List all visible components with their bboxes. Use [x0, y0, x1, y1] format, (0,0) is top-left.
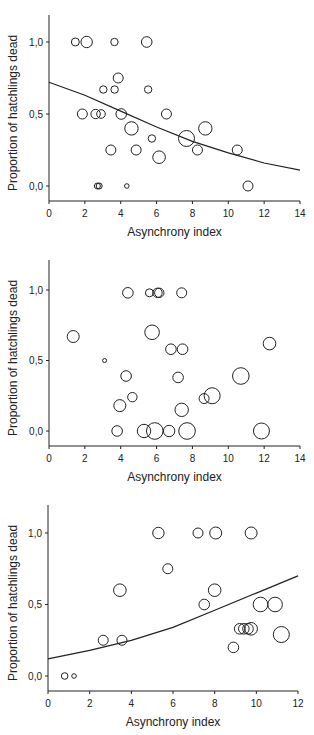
chart-panel-3: 0246810120,00,51,0Asynchrony indexPropor… — [0, 490, 314, 735]
data-point — [144, 86, 151, 93]
y-tick-label: 0,0 — [29, 181, 43, 192]
x-tick-label: 0 — [46, 453, 52, 464]
data-point — [106, 145, 116, 155]
data-point — [163, 425, 174, 436]
x-tick-label: 10 — [223, 208, 235, 219]
data-point — [67, 331, 79, 343]
data-point — [145, 289, 153, 297]
data-point — [253, 423, 269, 439]
data-point — [128, 392, 137, 401]
x-tick-label: 8 — [212, 698, 218, 709]
data-point — [141, 37, 152, 48]
data-point — [145, 325, 160, 340]
data-point — [137, 424, 150, 437]
data-point — [114, 584, 127, 597]
data-point — [153, 527, 164, 538]
data-point — [273, 627, 289, 643]
data-point — [204, 388, 220, 404]
x-tick-label: 14 — [294, 208, 306, 219]
data-point — [113, 73, 123, 83]
data-point — [148, 135, 155, 142]
y-tick-label: 0,5 — [29, 109, 43, 120]
data-point — [177, 288, 187, 298]
scatter-plot-3: 0246810120,00,51,0Asynchrony indexPropor… — [0, 490, 314, 735]
y-tick-label: 1,0 — [29, 37, 43, 48]
data-point — [177, 344, 188, 355]
data-point — [232, 145, 242, 155]
y-tick-label: 0,0 — [28, 671, 42, 682]
y-tick-label: 1,0 — [28, 528, 42, 539]
data-point — [163, 564, 173, 574]
x-tick-label: 10 — [251, 698, 263, 709]
data-point — [72, 674, 77, 679]
data-point — [179, 423, 196, 440]
data-point — [263, 337, 276, 350]
data-point — [71, 38, 79, 46]
data-point — [253, 597, 268, 612]
data-point — [103, 359, 107, 363]
data-point — [192, 145, 202, 155]
fit-curve — [49, 82, 300, 170]
data-point — [77, 109, 87, 119]
scatter-plot-2: 024681012140,00,51,0Asynchrony indexProp… — [0, 245, 314, 490]
data-point — [193, 528, 203, 538]
data-point — [100, 86, 107, 93]
x-tick-label: 4 — [118, 208, 124, 219]
y-tick-label: 0,0 — [29, 426, 43, 437]
x-tick-label: 4 — [129, 698, 135, 709]
data-point — [111, 86, 118, 93]
data-point — [210, 527, 222, 539]
x-tick-label: 2 — [82, 208, 88, 219]
x-tick-label: 8 — [190, 453, 196, 464]
x-tick-label: 4 — [118, 453, 124, 464]
data-point — [111, 38, 118, 45]
data-point — [97, 110, 106, 119]
x-tick-label: 6 — [154, 453, 160, 464]
x-tick-label: 12 — [259, 453, 271, 464]
data-point — [161, 109, 171, 119]
data-point — [166, 344, 177, 355]
data-point — [153, 151, 166, 164]
data-point — [199, 599, 210, 610]
x-tick-label: 0 — [46, 208, 52, 219]
data-point — [245, 527, 257, 539]
data-point — [233, 368, 250, 385]
data-point — [112, 426, 123, 437]
fit-curve — [48, 576, 298, 659]
x-tick-label: 12 — [292, 698, 304, 709]
data-point — [123, 288, 134, 299]
data-point — [81, 36, 92, 47]
data-point — [146, 423, 163, 440]
x-tick-label: 2 — [82, 453, 88, 464]
x-axis-label: Asynchrony index — [127, 225, 222, 239]
x-tick-label: 12 — [259, 208, 271, 219]
x-tick-label: 10 — [223, 453, 235, 464]
data-point — [121, 371, 132, 382]
x-tick-label: 6 — [170, 698, 176, 709]
data-point — [116, 109, 127, 120]
data-point — [114, 400, 126, 412]
data-point — [208, 584, 221, 597]
y-tick-label: 1,0 — [29, 285, 43, 296]
scatter-plot-1: 024681012140,00,51,0Asynchrony indexProp… — [0, 0, 314, 245]
data-point — [125, 184, 130, 189]
x-axis-label: Asynchrony index — [126, 715, 221, 729]
x-tick-label: 6 — [154, 208, 160, 219]
x-tick-label: 0 — [45, 698, 51, 709]
y-tick-label: 0,5 — [28, 599, 42, 610]
chart-panel-2: 024681012140,00,51,0Asynchrony indexProp… — [0, 245, 314, 490]
x-tick-label: 2 — [87, 698, 93, 709]
data-point — [117, 635, 127, 645]
data-point — [131, 145, 141, 155]
data-point — [243, 181, 253, 191]
y-tick-label: 0,5 — [29, 355, 43, 366]
x-tick-label: 14 — [294, 453, 306, 464]
data-point — [228, 642, 239, 653]
data-point — [125, 122, 138, 135]
y-axis-label: Proportion of hatchlings dead — [6, 35, 20, 191]
data-point — [199, 122, 212, 135]
data-point — [61, 673, 68, 680]
y-axis-label: Proportion of hatchlings dead — [6, 280, 20, 436]
x-tick-label: 8 — [190, 208, 196, 219]
x-axis-label: Asynchrony index — [127, 470, 222, 484]
